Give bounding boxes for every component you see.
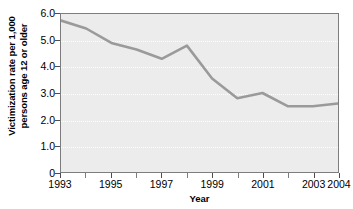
y-axis-title-line-1: Victimization rate per 1,000 (6, 0, 18, 158)
x-axis-tick-label: 1999 (192, 179, 232, 190)
y-axis-tick-label: 6.0 (29, 8, 55, 18)
x-axis-tick-label: 1997 (141, 179, 181, 190)
y-axis-tick-label: 3.0 (29, 88, 55, 98)
y-axis-tick-label: 5.0 (29, 35, 55, 45)
x-axis-tick-label: 1993 (40, 179, 80, 190)
y-axis-title-line-2: persons age 12 or older (18, 0, 30, 158)
x-axis-tickmark (85, 173, 86, 178)
x-axis-tickmark (288, 173, 289, 178)
y-axis-tick-label: 1.0 (29, 141, 55, 151)
x-axis-tickmark (187, 173, 188, 178)
x-axis-tick-label: 2004 (319, 179, 353, 190)
x-axis-tickmark (136, 173, 137, 178)
chart-container: Victimization rate per 1,000 persons age… (0, 0, 353, 209)
x-axis-tickmark (238, 173, 239, 178)
y-axis-tick-label: 0 (29, 168, 55, 178)
y-axis-tick-label: 4.0 (29, 61, 55, 71)
y-axis-title: Victimization rate per 1,000 persons age… (6, 0, 34, 158)
series-polyline (61, 21, 338, 107)
line-series (61, 14, 338, 172)
x-axis-tick-label: 1995 (91, 179, 131, 190)
x-axis-title: Year (60, 193, 339, 204)
y-axis-tick-label: 2.0 (29, 115, 55, 125)
x-axis-tick-label: 2001 (243, 179, 283, 190)
plot-area (60, 13, 339, 173)
